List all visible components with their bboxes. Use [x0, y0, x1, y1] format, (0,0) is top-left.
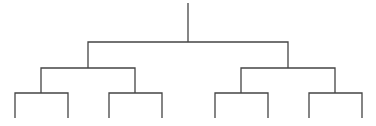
leaf-pair-2 — [109, 93, 162, 118]
right-subtree-connector — [241, 68, 335, 93]
tree-diagram — [0, 0, 376, 126]
leaf-pair-4 — [309, 93, 362, 118]
level1-connector — [88, 42, 288, 68]
leaf-pair-3 — [215, 93, 268, 118]
left-subtree-connector — [41, 68, 135, 93]
leaf-pair-1 — [15, 93, 68, 118]
